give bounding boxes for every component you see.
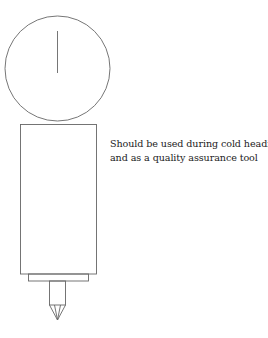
probe-stem: [50, 281, 66, 305]
caption-line-1: Should be used during cold heading: [110, 137, 268, 151]
gauge-body: [21, 125, 97, 275]
tool-diagram: [0, 0, 268, 338]
caption-line-2: and as a quality assurance tool: [110, 151, 268, 165]
probe-tip-inner-lines: [55, 305, 61, 320]
caption-text: Should be used during cold heading and a…: [110, 137, 268, 165]
gauge-base: [29, 274, 89, 281]
